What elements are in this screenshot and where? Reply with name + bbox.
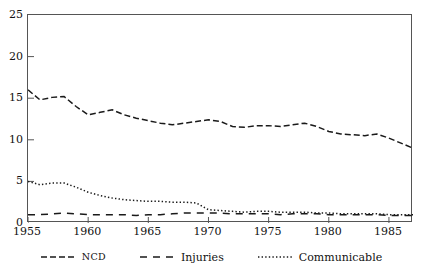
x-tick-label: 1975 bbox=[254, 226, 282, 237]
x-tick-label: 1970 bbox=[193, 226, 221, 237]
chart-page: 0510152025 NCDInjuriesCommunicable 19551… bbox=[0, 0, 423, 268]
legend-item-injuries[interactable]: Injuries bbox=[140, 252, 224, 263]
legend-item-ncd[interactable]: NCD bbox=[41, 252, 106, 262]
plot-lines bbox=[28, 15, 413, 223]
y-tick-label: 25 bbox=[1, 9, 23, 20]
y-tick-label: 20 bbox=[1, 50, 23, 61]
x-tick-label: 1955 bbox=[13, 226, 41, 237]
legend-swatch-dashed-icon bbox=[41, 252, 75, 262]
series-line-ncd bbox=[28, 90, 413, 148]
y-tick-label: 5 bbox=[1, 175, 23, 186]
x-tick-label: 1965 bbox=[133, 226, 161, 237]
legend-label: Injuries bbox=[181, 252, 224, 263]
legend-swatch-dotted-icon bbox=[258, 252, 292, 262]
x-tick-label: 1980 bbox=[314, 226, 342, 237]
x-tick-label: 1960 bbox=[73, 226, 101, 237]
legend-label: NCD bbox=[82, 252, 106, 262]
legend-label: Communicable bbox=[299, 252, 382, 263]
legend-item-communicable[interactable]: Communicable bbox=[258, 252, 382, 263]
x-tick-label: 1985 bbox=[374, 226, 402, 237]
y-tick-label: 15 bbox=[1, 92, 23, 103]
legend-swatch-long-dash-icon bbox=[140, 252, 174, 262]
y-tick-label: 10 bbox=[1, 133, 23, 144]
chart-legend: NCDInjuriesCommunicable bbox=[0, 248, 423, 266]
series-line-communicable bbox=[28, 181, 413, 214]
plot-area bbox=[27, 14, 412, 222]
